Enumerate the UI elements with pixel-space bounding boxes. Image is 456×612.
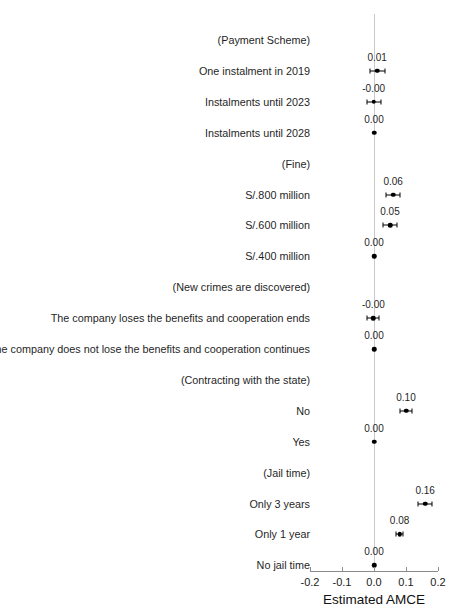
- confidence-interval-cap: [397, 223, 398, 228]
- estimate-point-marker: [372, 439, 377, 444]
- estimate-point-marker: [423, 501, 428, 506]
- estimate-value-label: 0.05: [380, 206, 399, 217]
- confidence-interval-cap: [432, 501, 433, 506]
- estimate-value-label: 0.16: [415, 485, 434, 496]
- attribute-group-label: (Jail time): [263, 467, 310, 479]
- attribute-level-label: S/.400 million: [245, 250, 310, 262]
- confidence-interval-cap: [382, 223, 383, 228]
- estimate-value-label: 0.06: [383, 176, 402, 187]
- x-axis-line: [310, 571, 438, 572]
- attribute-level-label: Yes: [292, 436, 310, 448]
- estimate-point-marker: [404, 409, 409, 414]
- confidence-interval-cap: [367, 316, 368, 321]
- estimate-point-marker: [391, 192, 396, 197]
- attribute-level-label: Only 3 years: [249, 498, 310, 510]
- attribute-group-label: (Payment Scheme): [218, 34, 310, 46]
- estimate-value-label: 0.00: [364, 114, 383, 125]
- attribute-level-label: S/.800 million: [245, 189, 310, 201]
- x-axis-tick-label: 0.1: [398, 576, 413, 588]
- x-axis-tick: [406, 567, 407, 571]
- x-axis-tick-label: 0.2: [430, 576, 445, 588]
- estimate-value-label: 0.00: [364, 546, 383, 557]
- attribute-level-label: No: [296, 405, 310, 417]
- estimate-point-marker: [372, 347, 377, 352]
- attribute-level-label: One instalment in 2019: [199, 65, 310, 77]
- estimate-value-label: 0.10: [396, 392, 415, 403]
- confidence-interval-cap: [379, 316, 380, 321]
- amce-forest-plot-figure: (Payment Scheme)One instalment in 20190.…: [0, 0, 456, 612]
- confidence-interval-cap: [418, 501, 419, 506]
- estimate-value-label: -0.00: [362, 299, 385, 310]
- attribute-group-label: (New crimes are discovered): [173, 281, 310, 293]
- estimate-point-marker: [371, 316, 376, 321]
- estimate-value-label: 0.08: [390, 515, 409, 526]
- estimate-point-marker: [372, 254, 377, 259]
- attribute-level-label: Only 1 year: [255, 528, 310, 540]
- x-axis-tick-label: -0.1: [333, 576, 352, 588]
- attribute-group-label: (Fine): [282, 158, 310, 170]
- estimate-point-marker: [372, 130, 377, 135]
- x-axis-title: Estimated AMCE: [323, 592, 425, 607]
- attribute-level-label: Instalments until 2028: [205, 127, 310, 139]
- estimate-point-marker: [375, 69, 380, 74]
- x-axis-tick: [374, 567, 375, 571]
- confidence-interval-cap: [384, 68, 385, 73]
- estimate-point-marker: [371, 100, 376, 105]
- attribute-level-label: The company loses the benefits and coope…: [51, 312, 310, 324]
- x-axis-tick: [310, 567, 311, 571]
- confidence-interval-cap: [386, 192, 387, 197]
- attribute-level-label: S/.600 million: [245, 219, 310, 231]
- confidence-interval-cap: [369, 68, 370, 73]
- attribute-group-label: (Contracting with the state): [181, 374, 310, 386]
- estimate-value-label: 0.00: [364, 237, 383, 248]
- x-axis-tick-label: -0.2: [301, 576, 320, 588]
- confidence-interval-cap: [403, 532, 404, 537]
- estimate-point-marker: [388, 223, 393, 228]
- confidence-interval-cap: [366, 99, 367, 104]
- estimate-value-label: 0.00: [364, 330, 383, 341]
- confidence-interval-cap: [412, 408, 413, 413]
- attribute-level-label: Instalments until 2023: [205, 96, 310, 108]
- estimate-value-label: 0.01: [367, 52, 386, 63]
- zero-reference-line: [374, 14, 375, 571]
- confidence-interval-cap: [381, 99, 382, 104]
- plot-area: (Payment Scheme)One instalment in 20190.…: [0, 0, 456, 612]
- estimate-value-label: -0.00: [362, 83, 385, 94]
- estimate-point-marker: [397, 532, 402, 537]
- confidence-interval-cap: [400, 192, 401, 197]
- attribute-level-label: The company does not lose the benefits a…: [0, 343, 310, 355]
- x-axis-tick: [438, 567, 439, 571]
- attribute-level-label: No jail time: [257, 559, 310, 571]
- x-axis-tick: [342, 567, 343, 571]
- estimate-value-label: 0.00: [364, 423, 383, 434]
- confidence-interval-cap: [399, 408, 400, 413]
- x-axis-tick-label: 0.0: [366, 576, 381, 588]
